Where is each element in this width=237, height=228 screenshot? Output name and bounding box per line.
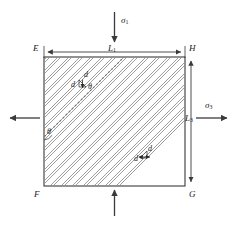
spacing-label-d-lower-top: d: [148, 145, 152, 153]
corner-label-H: H: [189, 44, 196, 53]
dimension-label-L3: L3: [185, 114, 193, 124]
stress-subscript-sigma1: 1: [125, 19, 128, 25]
spacing-label-d-lower-left: d: [134, 155, 138, 163]
dimension-label-L1: L1: [108, 44, 116, 54]
spacing-label-d-upper-left: d: [71, 81, 75, 89]
rock-joint-diagram: E H F G L1 L3 σ1 σ3 d d θ d d θ: [0, 0, 237, 228]
angle-label-theta-upper: θ: [88, 83, 92, 91]
corner-label-G: G: [189, 190, 196, 199]
dimension-subscript-L1: 1: [113, 47, 116, 53]
stress-label-sigma3: σ3: [205, 101, 212, 111]
stress-subscript-sigma3: 3: [209, 104, 212, 110]
stress-label-sigma1: σ1: [121, 16, 128, 26]
corner-label-E: E: [33, 44, 39, 53]
spacing-label-d-upper-top: d: [84, 71, 88, 79]
angle-label-theta-edge: θ: [47, 128, 51, 136]
dimension-subscript-L3: 3: [190, 117, 193, 123]
corner-label-F: F: [34, 190, 40, 199]
